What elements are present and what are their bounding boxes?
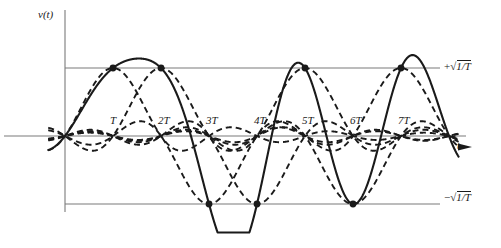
axes-group: [4, 10, 472, 212]
x-tick-label-t: T: [110, 114, 116, 126]
sample-point-6: [350, 201, 357, 208]
sample-point-2: [158, 65, 165, 72]
sample-point-5: [302, 65, 309, 72]
upper-level-sqrt: √1/T: [450, 60, 471, 72]
x-tick-label-4t: 4T: [254, 114, 266, 126]
sample-point-1: [110, 65, 117, 72]
sample-point-7: [398, 65, 405, 72]
waveform-figure: v(t) t T2T3T4T5T6T7T +√1/T −√1/T: [0, 0, 501, 248]
x-tick-label-2t: 2T: [158, 114, 170, 126]
plot-canvas: [0, 0, 501, 248]
lower-level-sqrt: √1/T: [450, 191, 471, 203]
x-tick-label-6t: 6T: [350, 114, 362, 126]
x-tick-label-3t: 3T: [206, 114, 218, 126]
composite-sum-curve: [48, 55, 458, 232]
lower-level-label: −√1/T: [444, 191, 471, 203]
y-axis-label: v(t): [38, 8, 53, 20]
sum-curve: [48, 55, 458, 232]
sample-point-4: [254, 201, 261, 208]
x-tick-label-7t: 7T: [398, 114, 410, 126]
sample-point-3: [206, 201, 213, 208]
lower-level-radicand: 1/T: [456, 191, 471, 203]
upper-level-radicand: 1/T: [456, 60, 471, 72]
upper-level-label: +√1/T: [444, 60, 471, 72]
t-axis-label: t: [457, 139, 460, 151]
x-tick-label-5t: 5T: [302, 114, 314, 126]
